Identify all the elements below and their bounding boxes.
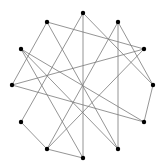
node-D — [19, 47, 23, 51]
graph-diagram — [0, 0, 167, 166]
node-K — [116, 147, 120, 151]
graph-edges — [12, 13, 153, 158]
node-H — [19, 120, 23, 124]
node-I — [142, 120, 146, 124]
node-A — [81, 11, 85, 15]
node-J — [45, 147, 49, 151]
edge-J-L — [47, 149, 83, 158]
edge-C-G — [118, 22, 153, 85]
edge-G-I — [144, 85, 153, 122]
edge-D-I — [21, 49, 144, 122]
node-L — [81, 156, 85, 160]
node-G — [151, 83, 155, 87]
edge-E-F — [12, 49, 144, 85]
node-C — [116, 20, 120, 24]
node-B — [45, 20, 49, 24]
node-E — [142, 47, 146, 51]
node-F — [10, 83, 14, 87]
edge-B-F — [12, 22, 47, 85]
edge-H-J — [21, 122, 47, 149]
